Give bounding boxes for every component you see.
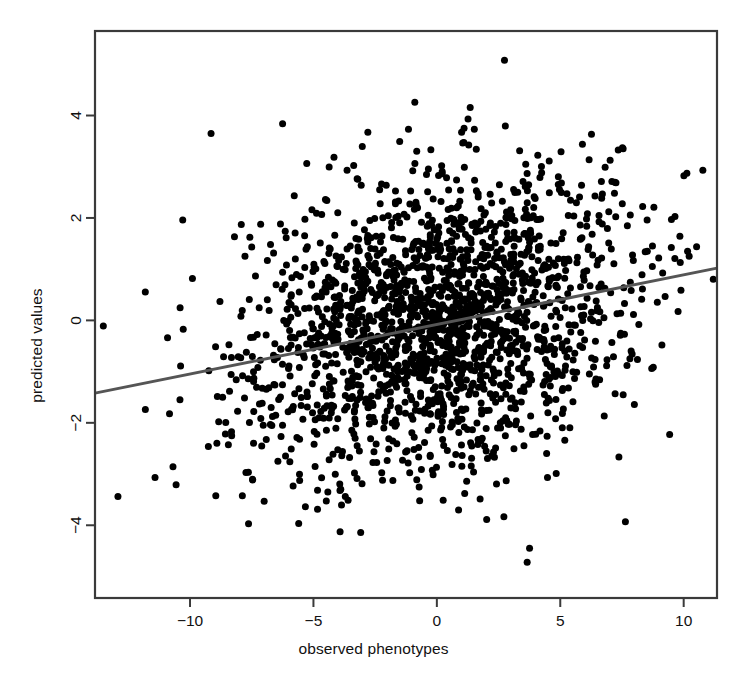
y-tick-label: 4: [68, 111, 85, 120]
x-tick-label: −10: [177, 612, 204, 629]
y-tick-label: −2: [68, 414, 85, 432]
y-tick-label: 0: [68, 316, 85, 325]
x-tick-label: 0: [433, 612, 442, 629]
x-axis-label: observed phenotypes: [0, 640, 747, 658]
scatter-plot-figure: −10−50510 −4−2024 observed phenotypes pr…: [0, 0, 747, 691]
y-tick-label: −4: [68, 516, 85, 534]
y-tick-label: 2: [68, 214, 85, 223]
y-axis-label: predicted values: [28, 0, 46, 691]
x-tick-label: 5: [556, 612, 565, 629]
x-tick-label: 10: [675, 612, 693, 629]
plot-canvas: −10−50510 −4−2024: [0, 0, 747, 691]
x-tick-label: −5: [305, 612, 323, 629]
